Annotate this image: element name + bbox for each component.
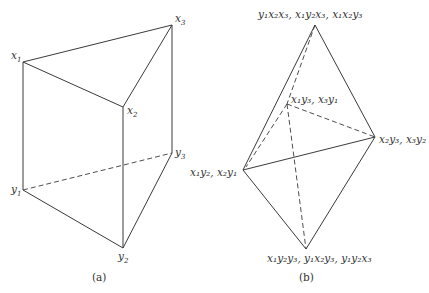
label-x1: x1 <box>11 49 21 64</box>
label-y2: y2 <box>117 250 129 265</box>
edge-top-right <box>315 25 375 137</box>
edge-y2-y3 <box>123 153 172 248</box>
edge-x1-x2 <box>23 62 123 107</box>
label-bottom: x₁y₂y₃, y₁x₂y₃, y₁y₂x₃ <box>267 252 372 264</box>
edge-left-bottom <box>243 170 306 249</box>
label-right: x₂y₃, x₃y₂ <box>379 133 426 145</box>
label-x2: x2 <box>127 104 138 119</box>
label-mid: x₁y₃, x₃y₁ <box>291 93 338 105</box>
edge-y1-y3-hidden <box>23 153 172 190</box>
label-left: x₁y₂, x₂y₁ <box>190 166 237 178</box>
edge-x2-x3 <box>123 25 172 107</box>
edge-right-bottom <box>306 137 375 249</box>
edge-mid-right-hidden <box>287 104 375 137</box>
label-y1: y1 <box>10 183 21 198</box>
diagram-canvas: x1 x3 x2 y1 y3 y2 (a) y₁x₂x₃, x₁y₂x₃, x₁… <box>0 0 429 293</box>
figure-b-polytope: y₁x₂x₃, x₁y₂x₃, x₁x₂y₃ x₁y₃, x₃y₁ x₂y₃, … <box>190 8 426 283</box>
label-x3: x3 <box>175 12 186 27</box>
edge-x1-x3 <box>23 25 172 62</box>
caption-b: (b) <box>299 271 314 283</box>
edge-mid-left-hidden <box>246 104 287 167</box>
label-top: y₁x₂x₃, x₁y₂x₃, x₁x₂y₃ <box>257 8 363 20</box>
figure-a-prism: x1 x3 x2 y1 y3 y2 (a) <box>10 12 186 283</box>
edge-left-right <box>243 137 375 170</box>
edge-mid-bottom-hidden <box>287 104 306 249</box>
label-y3: y3 <box>174 146 186 161</box>
caption-a: (a) <box>92 271 106 283</box>
edge-y1-y2 <box>23 190 123 248</box>
